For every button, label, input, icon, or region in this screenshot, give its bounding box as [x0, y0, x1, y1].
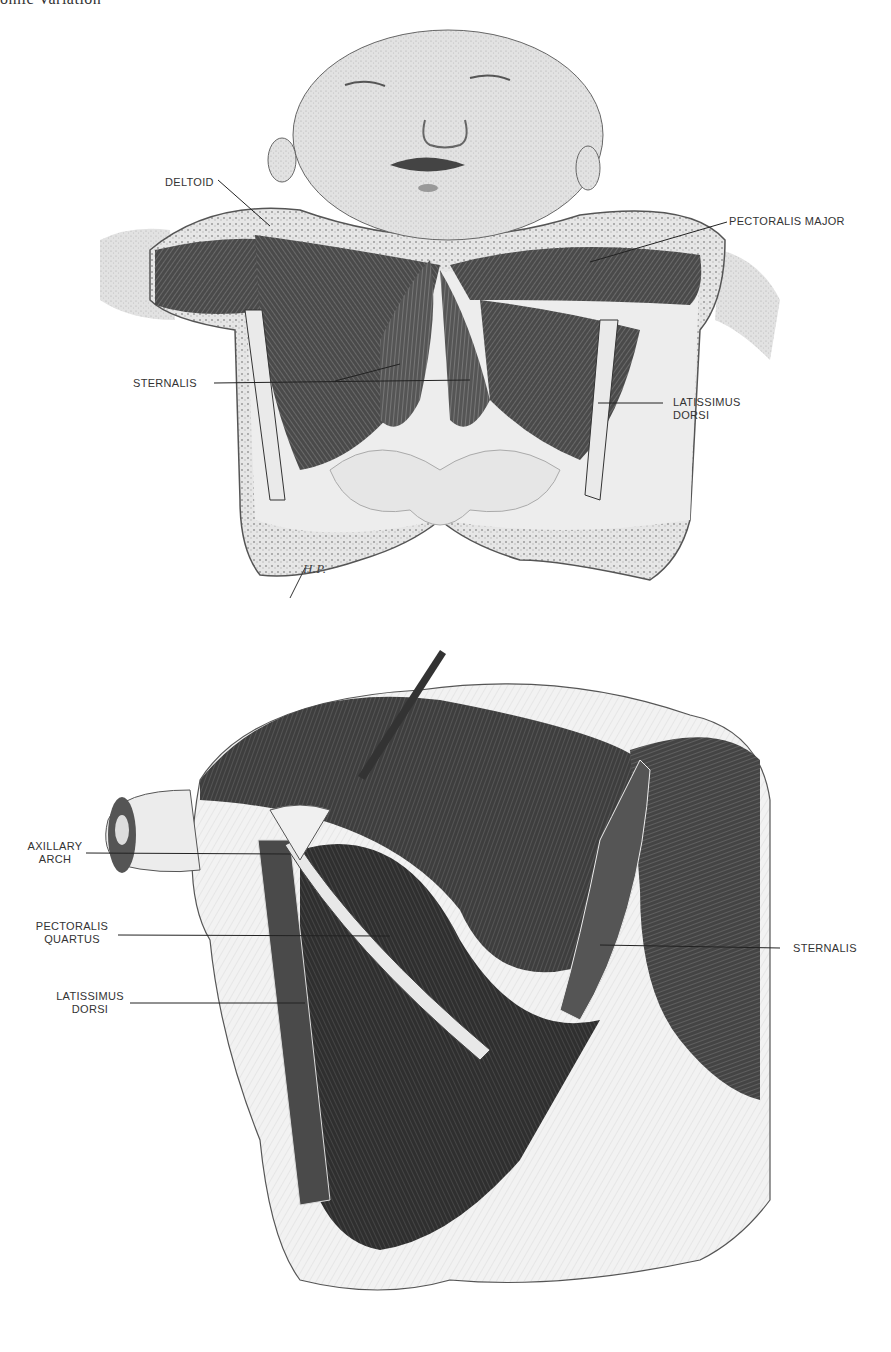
- figure-adult-thorax: AXILLARY ARCH PECTORALIS QUARTUS LATISSI…: [0, 640, 891, 1352]
- adult-thorax-illustration: [0, 640, 891, 1352]
- label-pectoralis-major: PECTORALIS MAJOR: [729, 215, 845, 228]
- label-deltoid: DELTOID: [165, 176, 214, 189]
- label-latissimus-dorsi-bottom: LATISSIMUS DORSI: [50, 990, 130, 1016]
- infant-thorax-illustration: [0, 0, 891, 610]
- label-pectoralis-quartus: PECTORALIS QUARTUS: [30, 920, 114, 946]
- figure-infant-thorax: DELTOID PECTORALIS MAJOR STERNALIS LATIS…: [0, 0, 891, 610]
- label-axillary-arch: AXILLARY ARCH: [22, 840, 88, 866]
- artist-signature: H.P.: [303, 562, 326, 575]
- label-sternalis-top: STERNALIS: [133, 377, 197, 390]
- label-latissimus-dorsi-top: LATISSIMUS DORSI: [673, 396, 741, 422]
- label-sternalis-bottom: STERNALIS: [793, 942, 857, 955]
